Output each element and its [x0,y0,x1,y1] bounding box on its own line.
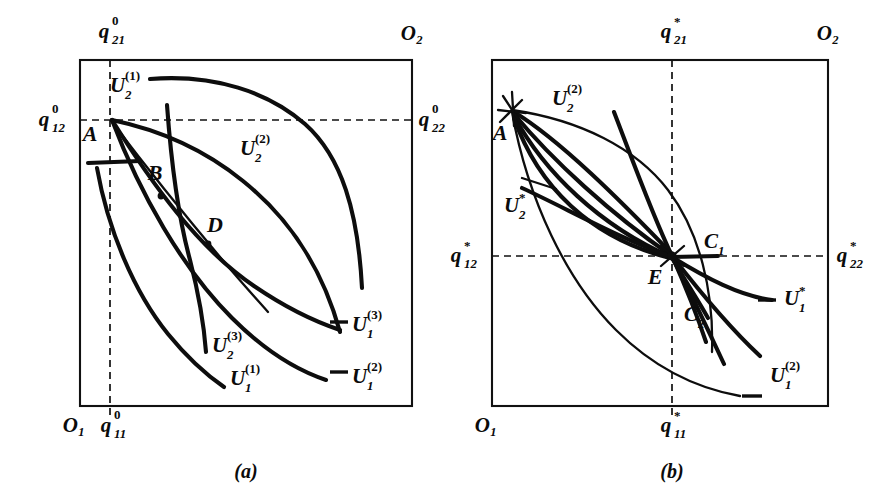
u-sup: (2) [367,359,382,374]
u-sub: 2 [518,207,526,222]
u-sup: * [519,190,526,205]
panel-a-tick-label-q12: q 0 12 [39,101,66,135]
panel-a-curve-label-u1-1: U 1 (1) [230,361,260,395]
panel-a-curve-label-u1-2: U 1 (2) [352,359,382,393]
u-sub: 1 [799,300,806,315]
u-sup: * [799,283,806,298]
panel-a-curve-label-u2-3: U 2 (3) [212,328,242,362]
q-base: q [101,413,112,437]
c-base: C [684,302,699,326]
u-sub: 2 [566,100,574,115]
q-sup: 0 [432,101,439,116]
u-sub: 2 [226,347,234,362]
panel-b-curve-e-flat-stub [672,256,718,257]
panel-b-curve-ray-3 [514,116,671,257]
u-sub: 1 [367,326,374,341]
panel-b-origin-1-label: O₁ [475,413,498,437]
panel-a-point-label-d: D [206,212,223,237]
panel-a-origin-1-label: O₁ [63,413,86,437]
panel-b-curve-ray-2 [514,114,672,256]
u-sup: (2) [255,131,270,146]
u-sub: 2 [254,150,262,165]
c-base: C [704,229,719,253]
panel-b: A E O₁ O₂ q * 21 q * 11 q * 12 q [451,14,864,483]
panel-b-curve-label-u1-2: U 1 (2) [770,358,800,392]
q-sub: 22 [849,256,864,271]
panel-b-tick-label-q21: q * 21 [661,14,687,47]
u-sub: 1 [785,377,792,392]
q-sup: 0 [112,13,119,28]
q-sub: 11 [114,426,126,441]
q-sub: 12 [464,256,478,271]
u-sup: (1) [125,68,140,83]
edgeworth-box-figure: A B D O₁ O₂ q 0 21 q 0 11 q 0 12 [0,0,890,497]
q-base: q [661,19,672,43]
u-sup: (2) [567,81,582,96]
panel-a-point-label-b: B [147,160,163,185]
panel-a-point-label-a: A [81,121,98,146]
q-sup: * [674,14,681,29]
panel-a-origin-2-label: O₂ [401,21,424,45]
panel-a-tangent-stub [88,161,140,163]
panel-b-tick-label-q11: q * 11 [661,408,687,441]
q-base: q [99,19,110,43]
u-sup: (3) [367,307,382,322]
panel-a-box-frame [80,60,412,406]
u-sup: (2) [785,358,800,373]
q-base: q [419,107,430,131]
q-base: q [661,413,672,437]
panel-b-curve-label-c1: C 1 [704,229,725,258]
panel-a-curve-u1-1 [97,168,224,387]
u-sub: 1 [245,380,252,395]
q-sub: 12 [52,120,66,135]
panel-a-curve-label-u2-1: U 2 (1) [110,68,140,102]
c-sub: 1 [718,243,725,258]
panel-b-caption: (b) [660,460,683,483]
panel-a-tick-label-q22: q 0 22 [419,101,446,135]
panel-b-point-label-e: E [647,264,663,289]
panel-a-point-b-dot [158,193,165,200]
panel-b-tick-label-q22: q * 22 [837,238,864,271]
q-base: q [451,243,462,267]
q-sub: 11 [674,426,686,441]
u-sup: (1) [245,361,260,376]
q-sup: * [464,238,471,253]
panel-a-tick-label-q11: q 0 11 [101,407,127,441]
panel-a-curve-u2-3 [167,105,206,352]
panel-a-curve-label-u1-3: U 1 (3) [352,307,382,341]
q-sup: * [674,408,681,423]
q-base: q [39,107,50,131]
q-base: q [837,243,848,267]
c-sub: 2 [697,316,705,331]
u-sub: 1 [367,378,374,393]
panel-b-origin-2-label: O₂ [817,21,840,45]
q-sup: 0 [114,407,121,422]
q-sup: 0 [52,101,59,116]
panel-b-tick-label-q12: q * 12 [451,238,478,271]
panel-b-point-label-a: A [491,120,508,145]
u-sub: 2 [124,87,132,102]
panel-b-point-e-dot [667,251,676,260]
panel-a-curve-u1-3 [112,120,340,330]
panel-a: A B D O₁ O₂ q 0 21 q 0 11 q 0 12 [39,13,446,483]
panel-b-a-burst-4 [512,92,514,126]
panel-b-curve-label-u2-2: U 2 (2) [552,81,582,115]
panel-b-curve-label-u2-star: U 2 * [504,190,526,222]
q-sup: * [850,238,857,253]
panel-a-curve-label-u2-2: U 2 (2) [240,131,270,165]
q-sub: 22 [431,120,446,135]
panel-b-curve-u1-outer [512,112,740,396]
u-sup: (3) [227,328,242,343]
panel-b-curve-label-u1-star: U 1 * [784,283,806,315]
panel-a-tick-label-q21: q 0 21 [99,13,125,47]
figure-container: A B D O₁ O₂ q 0 21 q 0 11 q 0 12 [0,0,890,497]
panel-a-caption: (a) [234,460,257,483]
q-sub: 21 [673,32,687,47]
panel-a-point-d-dot [205,241,212,248]
q-sub: 21 [111,32,125,47]
